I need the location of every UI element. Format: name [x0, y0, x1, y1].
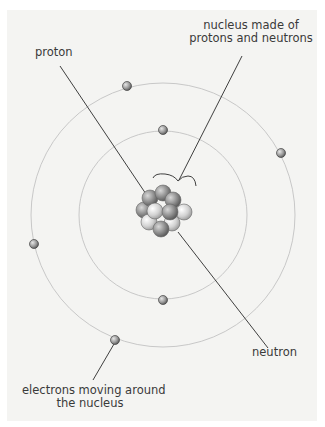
electrons-label: electrons moving around the nucleus	[22, 384, 158, 410]
electron	[123, 82, 132, 91]
nucleus-label-line2: protons and neutrons	[188, 32, 314, 45]
nucleus-label: nucleus made of protons and neutrons	[188, 19, 314, 45]
nucleus-brace	[153, 174, 196, 186]
electron	[159, 126, 168, 135]
electron	[30, 240, 39, 249]
electron	[111, 336, 120, 345]
nucleus-leader	[179, 56, 242, 180]
electron	[277, 149, 286, 158]
electron	[159, 296, 168, 305]
proton-label: proton	[35, 46, 73, 59]
electrons-label-line2: the nucleus	[22, 397, 158, 410]
electron-leader	[93, 344, 114, 380]
neutron-leader	[178, 232, 268, 348]
nucleus	[136, 185, 192, 237]
atom-diagram	[0, 0, 325, 427]
neutron-label: neutron	[252, 346, 297, 359]
